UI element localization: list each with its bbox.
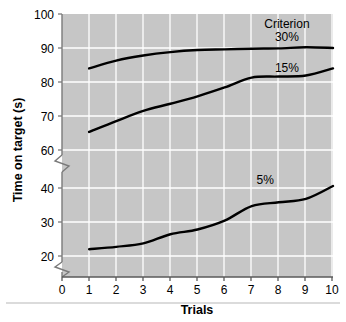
x-tick-label: 3 [140, 283, 147, 297]
x-tick-label: 8 [275, 283, 282, 297]
y-axis-title: Time on target (s) [11, 98, 25, 203]
annotation-30pct: 30% [275, 30, 299, 44]
x-tick-label: 6 [221, 283, 228, 297]
x-axis-title: Trials [181, 303, 214, 317]
x-tick-label: 7 [248, 283, 255, 297]
x-tick-label: 2 [113, 283, 120, 297]
y-tick-label: 90 [41, 42, 55, 56]
x-tick-label: 1 [86, 283, 93, 297]
y-tick-label: 20 [41, 250, 55, 264]
x-tick-label: 5 [194, 283, 201, 297]
y-tick-label: 60 [41, 144, 55, 158]
x-tick-label: 9 [302, 283, 309, 297]
x-tick-label: 4 [167, 283, 174, 297]
annotation-5pct: 5% [257, 173, 275, 187]
x-tick-label: 0 [59, 283, 66, 297]
chart-figure: 10090807060403020 012345678910 Criterion… [0, 0, 346, 322]
y-tick-label: 30 [41, 216, 55, 230]
y-tick-label: 80 [41, 76, 55, 90]
line-chart: 10090807060403020 012345678910 Criterion… [0, 0, 346, 322]
annotation-15pct: 15% [275, 61, 299, 75]
annotation-criterion: Criterion [264, 17, 309, 31]
x-tick-label: 10 [325, 283, 339, 297]
y-tick-label: 100 [34, 8, 54, 22]
y-tick-label: 40 [41, 182, 55, 196]
y-tick-label: 70 [41, 110, 55, 124]
